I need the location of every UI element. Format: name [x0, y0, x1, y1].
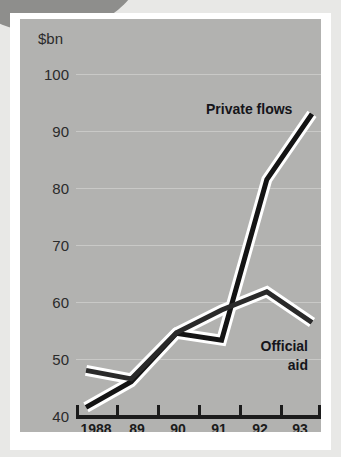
x-tick-label-89: 89: [129, 422, 145, 432]
x-tick-label-93: 93: [292, 422, 308, 432]
x-tick-mark-2: [157, 405, 160, 416]
x-tick-label-90: 90: [170, 422, 186, 432]
x-tick-1988: [76, 405, 79, 419]
series-label-official-aid: Official aid: [216, 337, 308, 375]
x-tick-mark-3: [198, 405, 201, 416]
x-tick-mark-5: [280, 405, 283, 416]
x-tick-1993: [318, 405, 321, 419]
x-tick-label-92: 92: [252, 422, 268, 432]
chart-card: $bn 100 90 80 70 60 50 40 Private flows …: [10, 13, 331, 450]
series-label-private-flows: Private flows: [206, 102, 292, 117]
x-tick-mark-4: [239, 405, 242, 416]
x-tick-label-91: 91: [211, 422, 227, 432]
x-tick-mark-1: [116, 405, 119, 416]
chart-plot-area: $bn 100 90 80 70 60 50 40 Private flows …: [20, 19, 321, 432]
series-label-official-aid-line1: Official: [216, 337, 308, 356]
x-tick-label-1988: 1988: [80, 422, 111, 432]
series-label-official-aid-line2: aid: [216, 356, 308, 375]
